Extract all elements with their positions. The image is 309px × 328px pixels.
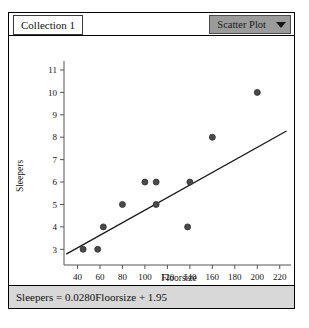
data-point xyxy=(119,201,125,207)
data-point xyxy=(100,224,106,230)
y-axis-tick-label: 9 xyxy=(53,110,58,120)
x-axis-tick-label: 60 xyxy=(95,272,105,282)
plot-type-label: Scatter Plot xyxy=(217,19,266,30)
y-axis-tick-label: 7 xyxy=(53,155,58,165)
y-axis-tick-label: 5 xyxy=(53,200,58,210)
x-axis-tick-label: 200 xyxy=(251,272,265,282)
data-point xyxy=(80,246,86,252)
regression-equation-text: Sleepers = 0.0280Floorsize + 1.95 xyxy=(9,291,167,303)
x-axis-tick-label: 40 xyxy=(73,272,83,282)
data-point xyxy=(209,134,215,140)
scatter-plot-svg: 34567891011 406080100120140160180200220 … xyxy=(9,36,294,287)
x-axis-title: Floorsize xyxy=(161,273,196,283)
data-point xyxy=(142,179,148,185)
equation-bar[interactable]: Sleepers = 0.0280Floorsize + 1.95 xyxy=(9,285,294,308)
data-point xyxy=(153,179,159,185)
data-point xyxy=(254,89,260,95)
data-point xyxy=(153,201,159,207)
y-axis-tick-label: 6 xyxy=(53,177,58,187)
window-header: Collection 1 Scatter Plot xyxy=(9,13,294,35)
y-axis-tick-label: 8 xyxy=(53,132,58,142)
scatter-plot-window: Collection 1 Scatter Plot 34567891011 40… xyxy=(8,12,295,309)
x-axis-tick-label: 160 xyxy=(206,272,220,282)
y-axis-title: Sleepers xyxy=(15,160,25,192)
y-axis-tick-label: 10 xyxy=(48,88,58,98)
data-point xyxy=(187,179,193,185)
y-axis: 34567891011 xyxy=(48,61,64,265)
plot-type-dropdown[interactable]: Scatter Plot xyxy=(209,15,291,34)
chevron-down-icon xyxy=(276,22,286,28)
x-axis-tick-label: 80 xyxy=(118,272,128,282)
data-point xyxy=(95,246,101,252)
data-points xyxy=(80,89,260,252)
x-axis-tick-label: 220 xyxy=(273,272,287,282)
y-axis-tick-label: 11 xyxy=(48,65,57,75)
y-axis-tick-label: 3 xyxy=(53,245,58,255)
collection-tab-label: Collection 1 xyxy=(21,19,75,31)
collection-tab[interactable]: Collection 1 xyxy=(13,15,83,35)
y-axis-tick-label: 4 xyxy=(53,222,58,232)
data-point xyxy=(185,224,191,230)
plot-area[interactable]: 34567891011 406080100120140160180200220 … xyxy=(9,35,294,287)
fit-line xyxy=(66,131,286,254)
x-axis-tick-label: 180 xyxy=(228,272,242,282)
x-axis-tick-label: 100 xyxy=(138,272,152,282)
regression-line xyxy=(66,131,286,254)
